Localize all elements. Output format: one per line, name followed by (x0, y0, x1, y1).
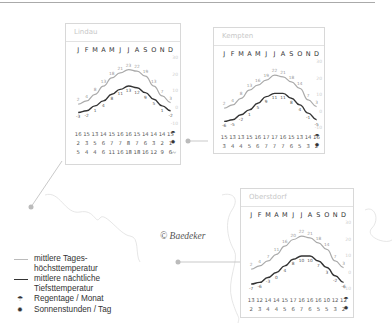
data-label: 9 (265, 99, 268, 104)
data-label: 5 (152, 101, 155, 106)
sun-hours-row: 234456765532 (247, 306, 348, 312)
month-label: O (296, 50, 304, 58)
y-axis-tick: 30 (312, 59, 322, 64)
row-value: 17 (270, 134, 278, 140)
data-label: -2 (168, 113, 173, 118)
data-label: 21 (280, 70, 286, 75)
y-axis-tick: 20 (312, 76, 322, 81)
row-value: 16 (116, 131, 124, 137)
y-axis-tick: 10 (341, 253, 351, 258)
y-axis-tick: -10 (341, 286, 351, 291)
data-label: -6 (222, 123, 227, 128)
high-temp-line (251, 236, 343, 269)
row-value: 5 (245, 143, 253, 149)
row-value: 3 (150, 140, 158, 146)
month-label: M (281, 211, 289, 219)
month-label: F (228, 50, 236, 58)
data-label: 21 (117, 66, 123, 71)
rain-icon: ☂ (17, 294, 23, 304)
row-value: 8 (124, 140, 132, 146)
data-label: 3 (342, 261, 345, 266)
data-label: 16 (282, 239, 288, 244)
row-value: 4 (237, 143, 245, 149)
legend-low-temp: mittlere nächtliche Tiefsttemperatur (14, 274, 111, 293)
row-value: 13 (237, 134, 245, 140)
row-value: 7 (297, 306, 305, 312)
y-axis-tick: 0 (168, 105, 178, 110)
water-temp-row: 544611161818161296 (74, 149, 175, 155)
month-label: A (279, 50, 287, 58)
row-value: 17 (262, 134, 270, 140)
data-label: -2 (333, 278, 338, 283)
data-label: 2 (223, 101, 226, 106)
row-value: 12 (150, 149, 158, 155)
temperature-plot: 2471116202221181473-7-6-3048101073-2-6 (241, 219, 353, 299)
water-icon: 〰 (168, 148, 178, 155)
data-label: 8 (94, 87, 97, 92)
copyright-label: © Baedeker (160, 231, 205, 241)
month-label: A (245, 50, 253, 58)
rain-days-row: 161513141516161514141415 (74, 131, 175, 137)
high-temp-line (224, 75, 316, 108)
row-value: 14 (141, 131, 149, 137)
rain-icon: ☂ (168, 129, 178, 136)
month-label: N (304, 50, 312, 58)
y-axis-tick: 0 (312, 109, 322, 114)
data-label: 3 (325, 270, 328, 275)
rain-icon: ☂ (341, 295, 351, 302)
row-value: 16 (297, 297, 305, 303)
data-label: 4 (283, 268, 286, 273)
row-value: 7 (133, 140, 141, 146)
month-label: D (312, 50, 320, 58)
month-label: S (141, 46, 149, 54)
row-value: 5 (91, 140, 99, 146)
month-label: J (270, 50, 278, 58)
row-value: 17 (289, 297, 297, 303)
legend-label: Tiefsttemperatur (34, 284, 111, 294)
panel-title: Kempten (214, 28, 324, 46)
data-label: -3 (266, 279, 271, 284)
row-value: 14 (272, 297, 280, 303)
data-label: 9 (144, 95, 147, 100)
data-label: 4 (258, 259, 261, 264)
legend-label: höchsttemperatur (34, 264, 111, 274)
row-value: 6 (254, 143, 262, 149)
month-label: N (158, 46, 166, 54)
data-label: -1 (306, 115, 311, 120)
data-label: 1 (94, 108, 97, 113)
month-label: A (306, 211, 314, 219)
legend-label: Sonnenstunden / Tag (34, 305, 111, 314)
panel-title: Lindau (66, 24, 180, 42)
row-value: 12 (331, 297, 339, 303)
data-label: 7 (267, 254, 270, 259)
data-label: 12 (134, 90, 140, 95)
y-axis-tick: -10 (168, 121, 178, 126)
row-value: 13 (91, 131, 99, 137)
y-axis-tick: 10 (168, 88, 178, 93)
row-value: 16 (306, 297, 314, 303)
row-value: 16 (124, 131, 132, 137)
row-value: 12 (255, 297, 263, 303)
row-value: 14 (150, 131, 158, 137)
data-label: 23 (126, 63, 132, 68)
row-value: 5 (74, 149, 82, 155)
data-label: 21 (307, 231, 313, 236)
data-label: 8 (110, 96, 113, 101)
data-label: 7 (161, 89, 164, 94)
legend-rain: ☂ Regentage / Monat (14, 294, 111, 304)
row-value: 13 (247, 297, 255, 303)
month-label: M (91, 46, 99, 54)
row-value: 15 (133, 131, 141, 137)
row-value: 5 (281, 306, 289, 312)
data-label: -2 (239, 117, 244, 122)
data-label: 4 (85, 94, 88, 99)
y-axis-tick: 0 (341, 270, 351, 275)
row-value: 4 (91, 149, 99, 155)
data-label: 8 (240, 91, 243, 96)
month-label: J (262, 50, 270, 58)
month-label: F (255, 211, 263, 219)
row-value: 13 (296, 134, 304, 140)
data-label: 11 (117, 91, 123, 96)
row-value: 16 (314, 297, 322, 303)
month-label: J (247, 211, 255, 219)
